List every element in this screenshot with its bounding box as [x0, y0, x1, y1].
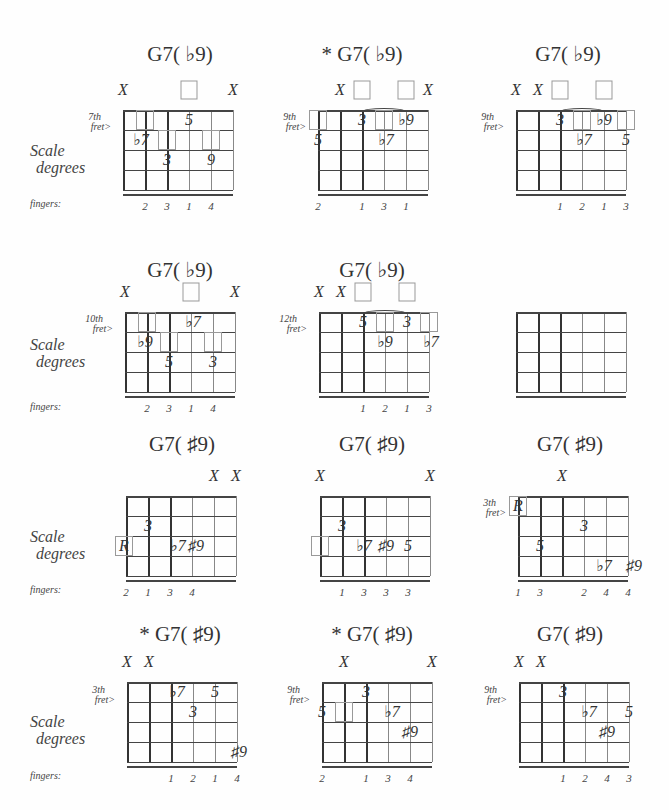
scale-degrees-line1: Scale — [30, 528, 85, 545]
finger-number: 1 — [404, 402, 410, 414]
muted-string-x: X — [315, 467, 325, 485]
scale-degree-marker: ♭9 — [377, 334, 393, 350]
ghost-note-box — [335, 702, 353, 722]
scale-degree-marker: 5 — [625, 704, 633, 720]
scale-degree-marker: ♯9 — [626, 558, 642, 574]
bottom-rule — [318, 194, 428, 196]
bottom-rule — [519, 766, 629, 768]
fret-position-line: fret> — [456, 508, 506, 518]
fret-line — [518, 516, 628, 517]
fretboard-grid: XX3♭7♯951333 — [320, 496, 430, 576]
muted-string-x: X — [118, 81, 128, 99]
finger-number: 1 — [212, 772, 218, 784]
ghost-note-box — [309, 110, 327, 130]
fret-position-line: fret> — [65, 695, 115, 705]
scale-degree-marker: ♯9 — [402, 724, 418, 740]
finger-number: 4 — [234, 772, 240, 784]
fingers-label: fingers: — [30, 198, 61, 209]
fretboard-grid: XX3R♭7♯92134 — [126, 496, 236, 576]
finger-number: 4 — [210, 402, 216, 414]
fret-line — [516, 372, 626, 373]
finger-number: 2 — [581, 586, 587, 598]
scale-degree-marker: ♭7 — [423, 334, 439, 350]
ghost-note-box — [617, 110, 635, 130]
scale-degree-marker: ♭7 — [378, 132, 394, 148]
scale-degrees-label: Scaledegrees — [30, 336, 85, 370]
finger-number: 1 — [403, 200, 409, 212]
fret-position-label: 9thfret> — [457, 685, 507, 705]
open-string-box — [181, 81, 198, 100]
finger-number: 3 — [381, 200, 387, 212]
fret-line — [126, 576, 236, 577]
ghost-note-box — [136, 110, 154, 130]
finger-number: 3 — [383, 586, 389, 598]
scale-degree-marker: 9 — [207, 152, 215, 168]
scale-degree-marker: ♭7 — [356, 538, 372, 554]
scale-degrees-label: Scaledegrees — [30, 528, 85, 562]
scale-degree-marker: ♯9 — [188, 538, 204, 554]
finger-number: 4 — [604, 772, 610, 784]
nut-line — [322, 682, 432, 684]
ghost-note-box — [158, 130, 176, 150]
finger-number: 1 — [359, 200, 365, 212]
fret-position-label: 9thfret> — [454, 112, 504, 132]
bottom-rule — [516, 396, 626, 398]
ghost-note-box — [160, 332, 178, 352]
chord-title: * G7( ♯9) — [139, 622, 221, 647]
muted-string-x: X — [514, 653, 524, 671]
fret-line — [127, 742, 237, 743]
fret-line — [123, 190, 233, 191]
muted-string-x: X — [228, 81, 238, 99]
finger-number: 3 — [623, 200, 629, 212]
fret-line — [320, 576, 430, 577]
finger-number: 2 — [582, 772, 588, 784]
scale-degrees-line1: Scale — [30, 713, 85, 730]
finger-number: 4 — [407, 772, 413, 784]
finger-number: 1 — [168, 772, 174, 784]
fret-line — [125, 372, 235, 373]
scale-degree-marker: R — [119, 538, 129, 554]
finger-number: 3 — [167, 586, 173, 598]
scale-degrees-line2: degrees — [30, 353, 85, 370]
fret-line — [319, 352, 429, 353]
fingers-label: fingers: — [30, 584, 61, 595]
scale-degree-marker: 3 — [144, 518, 152, 534]
bottom-rule — [127, 766, 237, 768]
chord-title: G7( ♭9) — [147, 42, 212, 67]
fret-line — [516, 150, 626, 151]
scale-degrees-line1: Scale — [30, 142, 85, 159]
muted-string-x: X — [339, 653, 349, 671]
fret-line — [320, 556, 430, 557]
finger-number: 2 — [319, 772, 325, 784]
fret-line — [319, 392, 429, 393]
finger-number: 1 — [186, 200, 192, 212]
string-line — [236, 496, 237, 576]
finger-number: 1 — [557, 200, 563, 212]
finger-number: 1 — [145, 586, 151, 598]
finger-number: 4 — [625, 586, 631, 598]
fret-line — [319, 332, 429, 333]
fret-line — [516, 130, 626, 131]
fret-position-label: 3thfret> — [65, 685, 115, 705]
chord-title: G7( ♯9) — [149, 432, 215, 457]
scale-degree-marker: ♯9 — [231, 744, 247, 760]
scale-degrees-line2: degrees — [30, 159, 85, 176]
fret-position-line: fret> — [257, 324, 307, 334]
string-line — [432, 682, 433, 762]
scale-degrees-label: Scaledegrees — [30, 142, 85, 176]
finger-number: 1 — [339, 586, 345, 598]
scale-degree-marker: 3 — [580, 518, 588, 534]
fret-line — [519, 702, 629, 703]
string-line — [629, 682, 630, 762]
fret-position-line: fret> — [457, 695, 507, 705]
fretboard-grid — [516, 312, 626, 392]
ghost-note-box — [138, 312, 156, 332]
muted-string-x: X — [336, 283, 346, 301]
finger-number: 4 — [603, 586, 609, 598]
chord-title: * G7( ♯9) — [331, 622, 413, 647]
open-string-box — [552, 81, 569, 100]
muted-string-x: X — [425, 467, 435, 485]
scale-degree-marker: 3 — [338, 518, 346, 534]
finger-number: 3 — [626, 772, 632, 784]
finger-number: 1 — [363, 772, 369, 784]
